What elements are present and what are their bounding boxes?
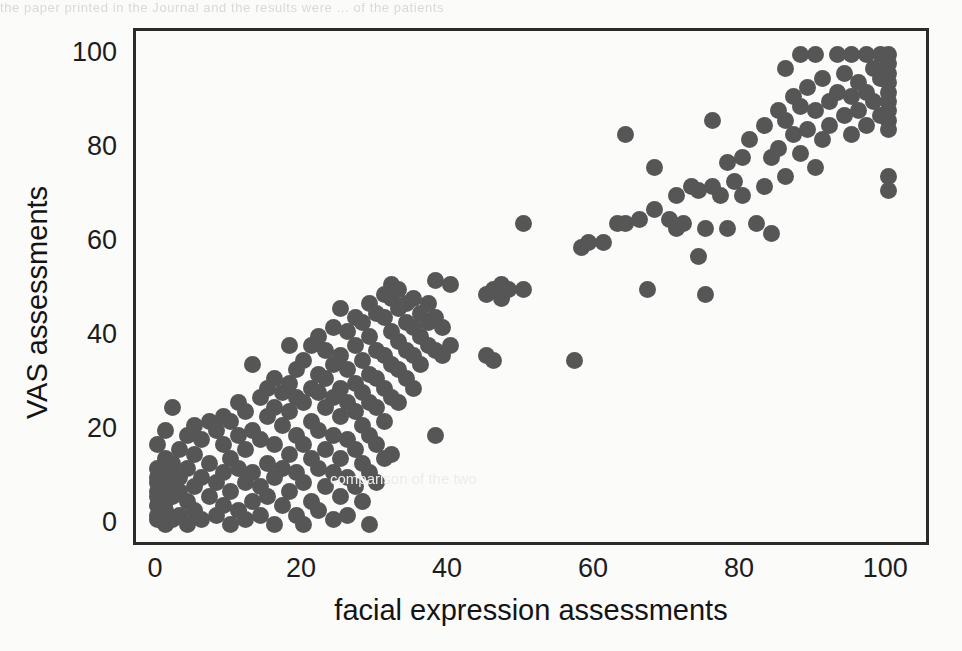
x-tick-label: 60 bbox=[543, 553, 643, 584]
data-point bbox=[763, 225, 780, 242]
scatter-plot-figure: comparison of the two 020406080100 02040… bbox=[0, 0, 962, 651]
x-axis-title: facial expression assessments bbox=[133, 594, 929, 627]
data-point bbox=[339, 507, 356, 524]
scan-bleedthrough-middle: comparison of the two bbox=[330, 470, 750, 494]
y-tick-label: 0 bbox=[27, 506, 117, 537]
data-point bbox=[332, 450, 349, 467]
data-point bbox=[164, 399, 181, 416]
data-point bbox=[193, 431, 210, 448]
data-point bbox=[639, 281, 656, 298]
data-point bbox=[515, 281, 532, 298]
data-point bbox=[383, 446, 400, 463]
plot-frame bbox=[133, 28, 929, 545]
data-point bbox=[734, 149, 751, 166]
data-point bbox=[405, 380, 422, 397]
x-tick-label: 80 bbox=[689, 553, 789, 584]
data-point bbox=[157, 422, 174, 439]
x-tick-label: 20 bbox=[251, 553, 351, 584]
data-point bbox=[295, 352, 312, 369]
data-point bbox=[281, 337, 298, 354]
x-axis-tick-labels: 020406080100 bbox=[0, 553, 962, 593]
data-point bbox=[675, 215, 692, 232]
data-point bbox=[770, 140, 787, 157]
data-point bbox=[741, 131, 758, 148]
data-point bbox=[442, 337, 459, 354]
data-point bbox=[617, 126, 634, 143]
data-point bbox=[792, 145, 809, 162]
data-point bbox=[595, 234, 612, 251]
data-point bbox=[704, 112, 721, 129]
x-tick-label: 0 bbox=[105, 553, 205, 584]
data-point bbox=[376, 413, 393, 430]
data-point bbox=[515, 215, 532, 232]
data-point bbox=[244, 356, 261, 373]
data-point bbox=[646, 159, 663, 176]
x-tick-label: 40 bbox=[397, 553, 497, 584]
data-point bbox=[880, 182, 897, 199]
y-tick-label: 100 bbox=[27, 36, 117, 67]
x-tick-label: 100 bbox=[835, 553, 935, 584]
data-point bbox=[697, 286, 714, 303]
data-point bbox=[485, 352, 502, 369]
data-point bbox=[186, 446, 203, 463]
data-point bbox=[427, 427, 444, 444]
data-point bbox=[756, 117, 773, 134]
data-point bbox=[412, 356, 429, 373]
data-point bbox=[237, 441, 254, 458]
data-point bbox=[295, 474, 312, 491]
data-point bbox=[690, 248, 707, 265]
data-point bbox=[266, 516, 283, 533]
data-point bbox=[756, 178, 773, 195]
data-point bbox=[354, 493, 371, 510]
data-point bbox=[361, 516, 378, 533]
y-axis-title: VAS assessments bbox=[21, 103, 54, 503]
data-point bbox=[646, 201, 663, 218]
data-point bbox=[814, 70, 831, 87]
data-point bbox=[697, 220, 714, 237]
data-point bbox=[712, 187, 729, 204]
plot-area bbox=[136, 31, 926, 542]
data-point bbox=[390, 394, 407, 411]
data-point bbox=[777, 60, 794, 77]
data-point bbox=[734, 187, 751, 204]
data-point bbox=[442, 276, 459, 293]
data-point bbox=[880, 121, 897, 138]
data-point bbox=[434, 319, 451, 336]
data-point bbox=[777, 168, 794, 185]
data-point bbox=[807, 159, 824, 176]
data-point bbox=[668, 187, 685, 204]
data-point bbox=[237, 403, 254, 420]
data-point bbox=[821, 117, 838, 134]
data-point bbox=[566, 352, 583, 369]
data-point bbox=[807, 46, 824, 63]
data-point bbox=[719, 220, 736, 237]
data-point bbox=[295, 516, 312, 533]
